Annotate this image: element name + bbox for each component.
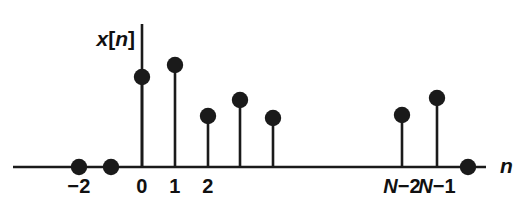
x-tick-label-N-2: N−2 [383,176,420,196]
x-tick-label-N-1: N−1 [418,176,455,196]
signal-label-open-bracket: [ [108,27,115,50]
x-tick-label-0: 0 [136,176,147,196]
x-axis-name-n: n [500,155,513,176]
x-tick-label-2: 2 [202,176,213,196]
sample-dot-2 [200,108,216,124]
x-tick-label-1: 1 [169,176,180,196]
tick-symbol-N: N [418,175,432,197]
stem-plot-figure: −2012N−2N−1 x[n] n [0,0,529,217]
tick-offset: −1 [433,175,456,197]
tick-offset: −2 [398,175,421,197]
axes-group [13,24,486,167]
sample-dot-3 [232,92,248,108]
sample-dot--1 [103,159,119,175]
sample-dot-N [460,159,476,175]
sample-dot-4 [265,110,281,126]
sample-dot-0 [134,69,150,85]
signal-label-close-bracket: ] [128,27,135,50]
stems-group [142,65,437,167]
sample-dot-1 [167,57,183,73]
tick-symbol-N: N [383,175,397,197]
signal-label-var: x [96,27,108,50]
signal-label-index: n [115,27,128,50]
signal-label-x-of-n: x[n] [96,28,135,49]
sample-dot--2 [71,159,87,175]
sample-dot-N-2 [394,107,410,123]
x-tick-label--2: −2 [67,176,90,196]
sample-dot-N-1 [429,90,445,106]
